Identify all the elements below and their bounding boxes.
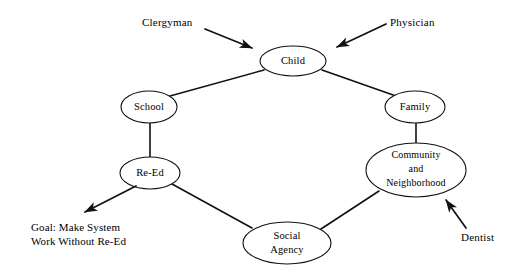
annotation-goal: Goal: Make System Work Without Re-Ed — [31, 186, 136, 247]
annotation-clergyman: Clergyman — [142, 16, 252, 48]
goal-arrow-icon — [85, 186, 136, 212]
node-community-label-line2: and — [409, 163, 424, 174]
clergyman-arrow-icon — [205, 29, 252, 48]
node-child[interactable]: Child — [260, 46, 326, 76]
node-child-label: Child — [281, 55, 306, 66]
diagram-canvas: Child School Family Re-Ed Community and … — [0, 0, 525, 279]
annotation-physician: Physician — [337, 16, 435, 47]
node-re-ed-label: Re-Ed — [136, 167, 164, 178]
node-re-ed[interactable]: Re-Ed — [120, 157, 180, 189]
node-social-agency-ellipse — [243, 222, 331, 264]
node-community-label-line1: Community — [391, 149, 440, 160]
diagram-svg: Child School Family Re-Ed Community and … — [0, 0, 525, 279]
link-social-agency-community — [321, 191, 379, 229]
node-school-label: School — [134, 101, 164, 112]
physician-label: Physician — [390, 16, 435, 28]
node-community-and-neighborhood[interactable]: Community and Neighborhood — [366, 143, 466, 197]
node-social-agency-label-line1: Social — [273, 230, 300, 241]
goal-label-line1: Goal: Make System — [31, 221, 120, 233]
goal-label-line2: Work Without Re-Ed — [31, 235, 126, 247]
dentist-arrow-icon — [446, 200, 466, 228]
annotation-dentist: Dentist — [446, 200, 494, 243]
link-re-ed-social-agency — [172, 184, 252, 228]
link-group — [150, 70, 416, 229]
node-family[interactable]: Family — [385, 91, 445, 123]
node-family-label: Family — [400, 101, 431, 112]
link-school-child — [170, 70, 264, 96]
node-community-label-line3: Neighborhood — [386, 177, 446, 188]
node-social-agency[interactable]: Social Agency — [243, 222, 331, 264]
clergyman-label: Clergyman — [142, 16, 193, 28]
dentist-label: Dentist — [461, 231, 494, 243]
link-child-family — [322, 70, 396, 96]
node-school[interactable]: School — [121, 91, 177, 123]
physician-arrow-icon — [337, 24, 386, 47]
node-social-agency-label-line2: Agency — [270, 244, 304, 255]
